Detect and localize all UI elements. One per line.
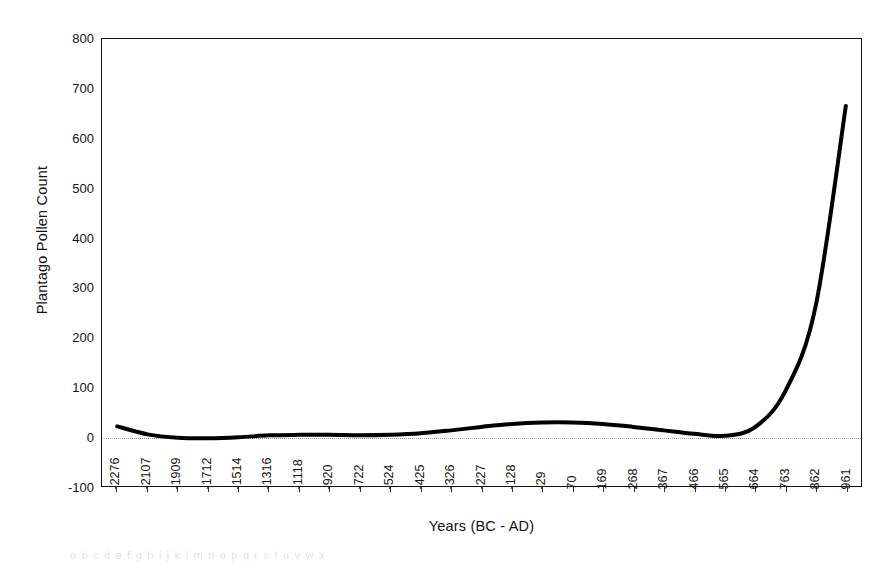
x-axis-tick-label: -425	[413, 464, 426, 489]
x-axis-tick-label: -29	[535, 471, 548, 489]
x-axis-title: Years (BC - AD)	[101, 518, 862, 534]
x-axis-tick-label: -2107	[139, 457, 152, 489]
x-axis-tick-label: 664	[748, 468, 761, 489]
x-axis-tick-label: 70	[565, 475, 578, 489]
x-axis-tick-label: 565	[718, 468, 731, 489]
plot-inner	[102, 39, 861, 486]
y-axis-tick-label: 200	[44, 331, 94, 344]
y-axis-tick-label: 500	[44, 181, 94, 194]
y-axis-tick-label: 100	[44, 381, 94, 394]
x-axis-tick-label: -1118	[291, 459, 304, 489]
x-axis-tick-label: -1514	[230, 457, 243, 489]
x-axis-tick-label: -1909	[170, 457, 183, 489]
y-axis-tick-label: 300	[44, 281, 94, 294]
y-axis-tick-label: 600	[44, 131, 94, 144]
x-axis-tick-label: -227	[474, 464, 487, 489]
y-axis-tick-label: 400	[44, 231, 94, 244]
x-axis-tick-label: 367	[657, 468, 670, 489]
x-axis-tick-label: -524	[383, 464, 396, 489]
x-axis-tick-label: -326	[444, 464, 457, 489]
x-axis-tick-label: -2276	[109, 457, 122, 489]
scan-artifact-text: a b c d e f g h i j k l m n o p q r s t …	[70, 549, 830, 561]
series-line-plantago-pollen-count	[102, 39, 861, 486]
x-axis-tick-label-group: -2276-2107-1909-1712-1514-1316-1118-920-…	[101, 443, 862, 489]
y-axis-tick-label: 700	[44, 81, 94, 94]
series-path	[117, 106, 846, 438]
x-axis-tick-label: 763	[778, 468, 791, 489]
plot-area	[101, 38, 862, 487]
x-axis-tick-label: 466	[687, 468, 700, 489]
x-axis-tick-label: 961	[839, 468, 852, 489]
y-axis-tick-label: 0	[44, 431, 94, 444]
x-axis-tick-label: -128	[504, 464, 517, 489]
x-axis-tick-label: 169	[596, 468, 609, 489]
x-axis-tick-label: 862	[809, 468, 822, 489]
x-axis-tick-label: 268	[626, 468, 639, 489]
x-axis-tick-label: -920	[322, 464, 335, 489]
y-axis-tick-label-group: 8007006005004003002001000-100	[44, 38, 94, 487]
x-axis-tick-label: -722	[352, 464, 365, 489]
y-axis-tick-label: -100	[44, 481, 94, 494]
x-axis-tick-label: -1712	[200, 457, 213, 489]
x-axis-tick-label: -1316	[261, 457, 274, 489]
y-axis-tick-label: 800	[44, 32, 94, 45]
chart-figure: Plantago Pollen Count 800700600500400300…	[0, 0, 894, 564]
